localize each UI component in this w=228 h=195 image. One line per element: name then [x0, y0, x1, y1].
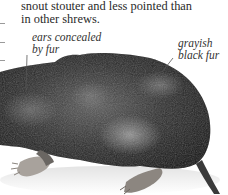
annotation-line: grayish [178, 38, 219, 50]
annotation-ears: ears concealed by fur [32, 32, 101, 55]
shrew-illustration [0, 0, 228, 195]
annotation-line: ears concealed [32, 32, 101, 44]
annotation-line: by fur [32, 44, 101, 56]
annotation-line: black fur [178, 50, 219, 62]
annotation-fur: grayish black fur [178, 38, 219, 61]
